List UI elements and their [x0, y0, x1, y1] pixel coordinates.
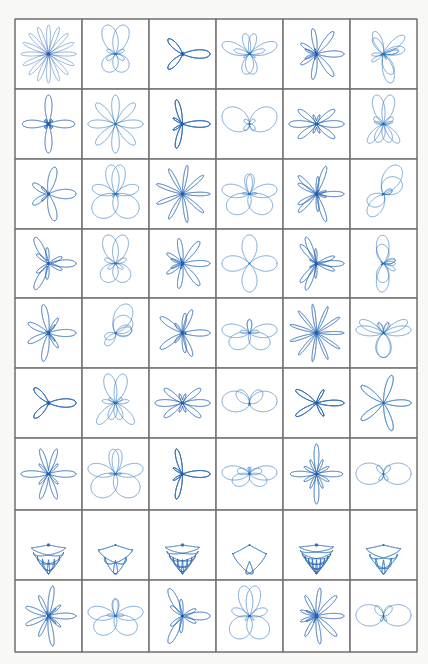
figure-center-dot [382, 615, 384, 617]
figure-center-dot [382, 332, 384, 334]
figure-center-dot [47, 52, 51, 56]
figure-center-dot [248, 615, 250, 617]
figure-center-dot [47, 543, 51, 547]
figure-center-dot [181, 401, 185, 405]
figure-center-dot [47, 472, 51, 476]
figure-center-dot [248, 193, 250, 195]
figure-center-dot [114, 193, 116, 195]
figure-center-dot [248, 53, 250, 55]
figure-center-dot [114, 544, 116, 546]
figure-center-dot [181, 52, 185, 56]
figure-center-dot [315, 262, 319, 266]
figure-center-dot [47, 331, 51, 335]
figure-center-dot [382, 262, 384, 264]
figure-center-dot [47, 262, 51, 266]
figure-center-dot [181, 122, 185, 126]
figure-center-dot [315, 401, 319, 405]
figure-center-dot [114, 615, 116, 617]
figure-center-dot [382, 123, 384, 125]
figure-center-dot [114, 332, 116, 334]
figure-grid [0, 0, 428, 664]
figure-center-dot [315, 52, 319, 56]
figure-center-dot [315, 122, 319, 126]
figure-center-dot [382, 402, 384, 404]
figure-center-dot [114, 53, 116, 55]
figure-center-dot [315, 192, 319, 196]
figure-center-dot [47, 122, 51, 126]
figure-center-dot [47, 614, 51, 618]
figure-center-dot [181, 192, 185, 196]
figure-center-dot [181, 543, 185, 547]
figure-center-dot [248, 544, 250, 546]
figure-center-dot [248, 262, 250, 264]
figure-center-dot [315, 472, 319, 476]
figure-center-dot [181, 472, 185, 476]
figure-center-dot [114, 402, 116, 404]
figure-center-dot [382, 544, 384, 546]
figure-center-dot [181, 614, 185, 618]
figure-center-dot [47, 401, 51, 405]
figure-center-dot [114, 123, 116, 125]
figure-center-dot [382, 53, 384, 55]
figure-center-dot [248, 332, 250, 334]
figure-center-dot [181, 262, 185, 266]
figure-center-dot [315, 614, 319, 618]
figure-center-dot [382, 193, 384, 195]
figure-center-dot [248, 473, 250, 475]
figure-center-dot [248, 123, 250, 125]
figure-center-dot [181, 331, 185, 335]
figure-center-dot [114, 473, 116, 475]
figure-center-dot [47, 192, 51, 196]
figure-center-dot [114, 262, 116, 264]
figure-center-dot [315, 331, 319, 335]
figure-center-dot [248, 402, 250, 404]
figure-center-dot [382, 473, 384, 475]
figure-center-dot [315, 543, 319, 547]
scanned-page [0, 0, 428, 664]
